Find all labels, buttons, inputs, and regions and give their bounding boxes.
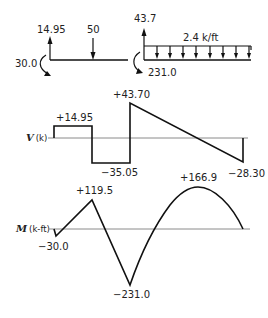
shear-diagram: V(k) +14.95 −35.05 +43.70 −28.30 xyxy=(26,89,265,179)
beam-analysis-diagram: 14.95 50 30.0 2.4 k/ft xyxy=(0,0,268,318)
moment-value-3: −231.0 xyxy=(113,289,150,300)
left-moment-arc-icon xyxy=(40,55,51,76)
shear-axis-label: V(k) xyxy=(26,132,47,143)
moment-axis-label: M(k-ft) xyxy=(15,223,50,234)
shear-value-4: −28.30 xyxy=(228,168,265,179)
moment-curve xyxy=(54,187,243,285)
distributed-load-arrows-icon xyxy=(155,46,251,59)
shear-value-1: +14.95 xyxy=(56,112,93,123)
moment-value-2: +119.5 xyxy=(76,185,113,196)
free-body-left: 14.95 50 30.0 xyxy=(15,24,128,76)
right-moment-label: 231.0 xyxy=(148,67,177,78)
distributed-load-label: 2.4 k/ft xyxy=(183,32,219,43)
shear-value-3: +43.70 xyxy=(113,89,150,100)
right-reaction-arrow-icon xyxy=(142,28,147,60)
point-load-arrow-icon xyxy=(91,38,96,60)
moment-diagram: M(k-ft) −30.0 +119.5 −231.0 +166.9 xyxy=(15,172,250,300)
free-body-right: 2.4 k/ft 43.7 231.0 xyxy=(134,13,251,78)
moment-value-1: −30.0 xyxy=(38,241,69,252)
left-moment-label: 30.0 xyxy=(15,58,37,69)
left-reaction-arrow-icon xyxy=(48,36,53,60)
right-moment-arc-icon xyxy=(134,52,143,74)
left-reaction-label: 14.95 xyxy=(37,24,66,35)
moment-value-4: +166.9 xyxy=(180,172,217,183)
shear-value-2: −35.05 xyxy=(101,167,138,178)
point-load-label: 50 xyxy=(87,24,100,35)
right-reaction-label: 43.7 xyxy=(134,13,156,24)
